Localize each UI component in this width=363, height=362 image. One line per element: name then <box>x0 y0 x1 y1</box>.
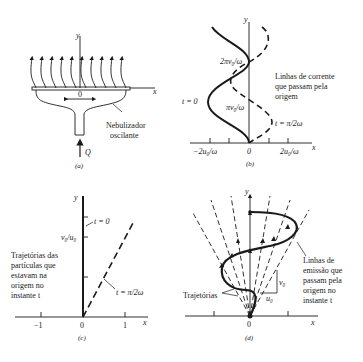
d-traj-leader-1 <box>222 289 234 293</box>
c-x-label: x <box>142 318 147 327</box>
b-curve-t0-label: t = 0 <box>182 97 198 106</box>
b-tick-neg: −2u₀/ω <box>193 147 217 156</box>
streamline-t-pi-2w <box>231 27 272 143</box>
panel-b: y x −2u₀/ω 0 2u₀/ω 2πv₀/ω πv₀/ω t = 0 t … <box>182 15 335 168</box>
a-x-label: x <box>152 87 157 96</box>
d-note-3: passam pela <box>303 276 342 285</box>
d-origin-label: 0 <box>247 320 251 329</box>
d-note-4: origem no <box>303 286 336 295</box>
figure-canvas: y x 0 Q Nebulizador oscilante (a) y x −2… <box>0 0 363 362</box>
streakline <box>222 212 297 316</box>
streamlines <box>31 58 126 88</box>
a-flow-label: Q <box>85 148 91 157</box>
b-tick-pos: 2u₀/ω <box>280 147 299 156</box>
d-caption: (d) <box>245 334 254 342</box>
streakline-end <box>248 210 252 214</box>
d-x-label: x <box>310 318 315 327</box>
a-origin-label: 0 <box>78 90 82 99</box>
d-traj-label: Trajetórias <box>183 291 217 300</box>
origin-point <box>248 314 253 319</box>
c-curve-t0-label: t = 0 <box>94 217 110 226</box>
c-y-label: y <box>73 193 78 202</box>
b-curve-t1-label: t = π/2ω <box>275 119 303 128</box>
c-tick-pos1: 1 <box>123 321 127 330</box>
b-y-mark-1: πv₀/ω <box>226 103 245 112</box>
a-caption: (a) <box>75 162 84 170</box>
streamline-t0 <box>208 27 249 143</box>
d-note-1: Linhas de <box>303 256 335 265</box>
label-leader <box>113 104 122 112</box>
c-note-5: instante t <box>11 291 41 300</box>
a-device-label-2: oscilante <box>110 131 139 140</box>
b-note-3: origem <box>275 92 298 101</box>
panel-c: y x −1 0 1 v₀/u₀ t = 0 t = π/2ω Trajetór… <box>11 193 148 342</box>
c-y-mark: v₀/u₀ <box>61 233 77 242</box>
d-traj-leader-2 <box>222 293 238 296</box>
b-y-label: y <box>243 15 248 24</box>
d-u-label: u₀ <box>266 294 273 303</box>
panel-d: y x 0 v₀ u₀ Trajetórias Linhas de emissã… <box>183 187 343 342</box>
a-y-label: y <box>75 31 80 40</box>
c-note-4: origem no <box>11 281 44 290</box>
panel-a: y x 0 Q Nebulizador oscilante (a) <box>31 31 157 170</box>
c-note-1: Trajetórias das <box>11 251 58 260</box>
d-note-5: instante t <box>303 296 333 305</box>
c-leader-t0 <box>86 222 93 226</box>
a-device-label-1: Nebulizador <box>106 121 146 130</box>
b-note-2: que passam pela <box>275 82 328 91</box>
velocity-triangle <box>260 270 277 293</box>
b-x-label: x <box>311 143 316 152</box>
c-curve-t1-label: t = π/2ω <box>116 288 144 297</box>
d-note-2: emissão que <box>303 266 343 275</box>
d-v-label: v₀ <box>279 278 286 287</box>
d-y-label: y <box>244 187 249 196</box>
c-leader-t1 <box>104 279 115 289</box>
c-note-3: estavam na <box>11 271 47 280</box>
c-note-2: partículas que <box>11 261 56 270</box>
b-caption: (b) <box>246 160 255 168</box>
c-tick-zero: 0 <box>80 321 84 330</box>
ray-arrowheads <box>219 210 290 268</box>
b-note-1: Linhas de corrente <box>275 72 335 81</box>
trajectory-t-pi-2w <box>83 223 133 317</box>
c-caption: (c) <box>78 334 86 342</box>
c-tick-neg1: −1 <box>34 321 43 330</box>
b-y-mark-2: 2πv₀/ω <box>220 57 243 66</box>
b-tick-zero: 0 <box>247 147 251 156</box>
d-note-leader <box>297 242 306 256</box>
